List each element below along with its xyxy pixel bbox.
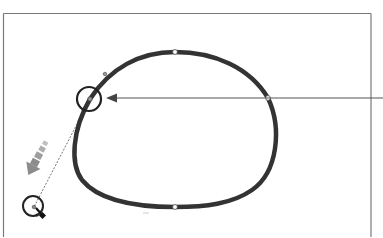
direction-handle-point-upper[interactable] <box>103 72 107 76</box>
anchor-bottom[interactable] <box>173 205 178 210</box>
anchor-top[interactable] <box>173 50 178 55</box>
handle-end-point[interactable] <box>32 205 36 209</box>
arrowhead-icon <box>106 94 117 103</box>
drag-direction-arrow-icon <box>21 138 53 179</box>
direct-selection-cursor-icon <box>36 208 47 219</box>
artboard-frame <box>4 14 372 238</box>
callout-arrow <box>106 94 383 103</box>
anchor-left-selected[interactable] <box>88 97 92 101</box>
path-editing-diagram <box>0 0 383 237</box>
